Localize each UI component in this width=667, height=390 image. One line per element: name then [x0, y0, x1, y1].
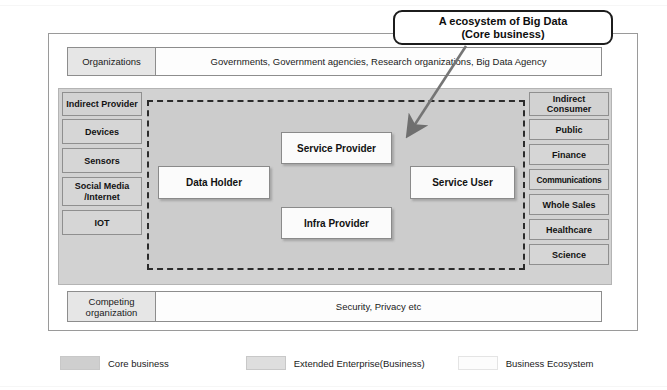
- legend-label-core-business: Core business: [108, 358, 169, 369]
- scan-artifact: [0, 386, 667, 387]
- indirect-consumer-item-finance[interactable]: Finance: [529, 144, 609, 165]
- indirect-consumer-item-whole-sales[interactable]: Whole Sales: [529, 194, 609, 215]
- indirect-provider-item-devices[interactable]: Devices: [62, 119, 142, 144]
- callout-title-line1: A ecosystem of Big Data: [439, 15, 568, 28]
- competing-organization-label: Competing organization: [68, 292, 156, 321]
- actor-box-service-provider[interactable]: Service Provider: [281, 132, 392, 164]
- legend-entry-business-ecosystem: Business Ecosystem: [458, 356, 594, 370]
- indirect-provider-item-sensors[interactable]: Sensors: [62, 148, 142, 173]
- legend-swatch-business-ecosystem: [458, 356, 498, 370]
- diagram-canvas: Organizations Governments, Government ag…: [0, 0, 667, 390]
- legend-swatch-core-business: [60, 356, 100, 370]
- legend-label-business-ecosystem: Business Ecosystem: [506, 358, 594, 369]
- organizations-row: Organizations Governments, Government ag…: [67, 47, 602, 76]
- legend-label-extended-enterprise: Extended Enterprise(Business): [294, 358, 425, 369]
- legend-entry-extended-enterprise: Extended Enterprise(Business): [246, 356, 425, 370]
- indirect-consumer-item-communications[interactable]: Communications: [529, 169, 609, 190]
- indirect-consumer-column: Indirect Consumer Public Finance Communi…: [529, 92, 609, 269]
- indirect-consumer-header: Indirect Consumer: [529, 92, 609, 116]
- scan-artifact: [0, 5, 667, 6]
- actor-box-infra-provider[interactable]: Infra Provider: [281, 207, 392, 239]
- indirect-consumer-item-public[interactable]: Public: [529, 119, 609, 140]
- indirect-provider-item-iot[interactable]: IOT: [62, 210, 142, 235]
- organizations-label: Organizations: [68, 48, 156, 75]
- actor-box-service-user[interactable]: Service User: [410, 166, 515, 199]
- indirect-provider-column: Indirect Provider Devices Sensors Social…: [62, 92, 142, 239]
- indirect-consumer-item-science[interactable]: Science: [529, 244, 609, 265]
- indirect-provider-header: Indirect Provider: [62, 92, 142, 116]
- competing-organization-value: Security, Privacy etc: [156, 292, 601, 321]
- organizations-value: Governments, Government agencies, Resear…: [156, 48, 601, 75]
- legend-entry-core-business: Core business: [60, 356, 169, 370]
- legend-swatch-extended-enterprise: [246, 356, 286, 370]
- legend: Core business Extended Enterprise(Busine…: [60, 352, 640, 374]
- actor-box-data-holder[interactable]: Data Holder: [158, 166, 270, 199]
- core-business-callout: A ecosystem of Big Data (Core business): [393, 10, 613, 45]
- indirect-consumer-item-healthcare[interactable]: Healthcare: [529, 219, 609, 240]
- competing-organization-row: Competing organization Security, Privacy…: [67, 291, 602, 322]
- callout-title-line2: (Core business): [461, 28, 544, 41]
- indirect-provider-item-social-media[interactable]: Social Media /Internet: [62, 177, 142, 206]
